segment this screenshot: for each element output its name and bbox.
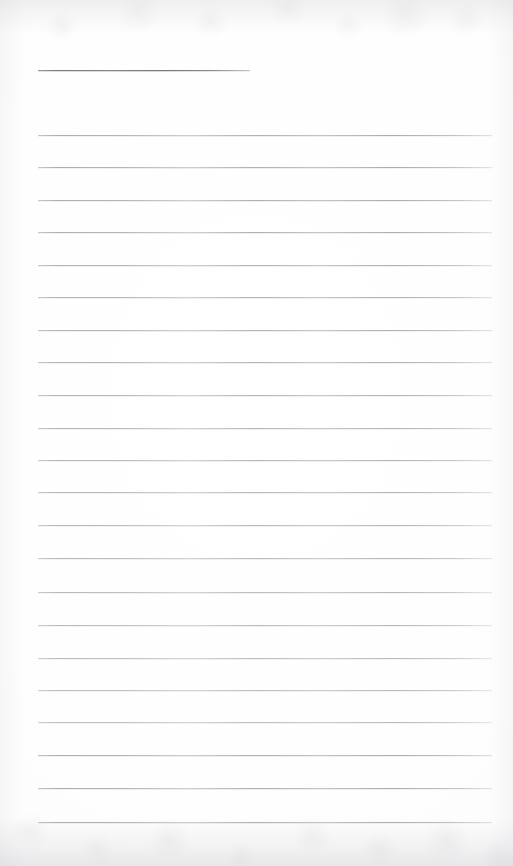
ruled-line — [38, 558, 492, 559]
paper-grain-texture — [0, 0, 513, 866]
ruled-line — [38, 492, 492, 493]
ruled-line — [38, 658, 492, 659]
ruled-line — [38, 592, 492, 593]
ruled-line — [38, 460, 492, 461]
ruled-line — [38, 167, 492, 168]
ruled-line — [38, 722, 492, 723]
right-edge-scan-shadow — [487, 0, 513, 866]
top-edge-scan-shadow — [0, 0, 513, 34]
ruled-line — [38, 822, 492, 823]
scanned-page — [0, 0, 513, 866]
heading-rule — [38, 70, 250, 71]
ruled-line — [38, 625, 492, 626]
ruled-line — [38, 395, 492, 396]
left-edge-scan-shadow — [0, 0, 26, 866]
ruled-line — [38, 755, 492, 756]
ruled-line — [38, 330, 492, 331]
bottom-edge-scan-shadow — [0, 818, 513, 866]
ruled-line — [38, 788, 492, 789]
ruled-line — [38, 525, 492, 526]
ruled-line — [38, 200, 492, 201]
ruled-line — [38, 362, 492, 363]
ruled-line — [38, 265, 492, 266]
ruled-line — [38, 690, 492, 691]
ruled-line — [38, 135, 492, 136]
ruled-line — [38, 428, 492, 429]
ruled-line — [38, 297, 492, 298]
ruled-line — [38, 232, 492, 233]
